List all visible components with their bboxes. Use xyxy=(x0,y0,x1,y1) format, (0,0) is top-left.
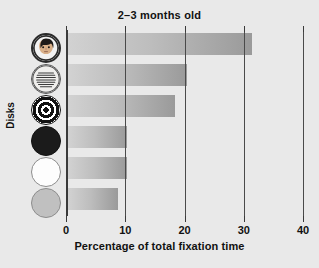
bar-black xyxy=(68,126,127,148)
tick-top-20 xyxy=(185,26,186,32)
chart-title: 2–3 months old xyxy=(0,9,319,21)
x-tick-label-30: 30 xyxy=(238,224,250,236)
tick-top-30 xyxy=(244,26,245,32)
gridline-40 xyxy=(303,30,304,216)
tick-top-10 xyxy=(125,26,126,32)
face-disk-icon xyxy=(31,33,61,63)
x-axis-title: Percentage of total fixation time xyxy=(0,240,319,252)
bar-chart: 2–3 months old Disks xyxy=(0,0,319,268)
white-disk-icon xyxy=(31,157,61,187)
tick-bottom-10 xyxy=(125,216,126,222)
gray-disk-icon xyxy=(31,188,61,218)
tick-bottom-30 xyxy=(244,216,245,222)
bar-white xyxy=(68,157,127,179)
x-tick-label-10: 10 xyxy=(119,224,131,236)
x-tick-label-40: 40 xyxy=(297,224,309,236)
y-axis-title: Disks xyxy=(5,92,16,140)
tick-bottom-0 xyxy=(66,216,67,222)
bar-bullseye xyxy=(68,95,175,117)
bar-newsprint xyxy=(68,64,187,86)
newsprint-disk-icon xyxy=(31,64,61,94)
bullseye-disk-icon xyxy=(31,95,61,125)
black-disk-icon xyxy=(31,126,61,156)
tick-bottom-40 xyxy=(303,216,304,222)
tick-top-0 xyxy=(66,26,67,32)
tick-top-40 xyxy=(303,26,304,32)
gridline-30 xyxy=(244,30,245,216)
bar-face xyxy=(68,33,252,55)
x-tick-label-20: 20 xyxy=(178,224,190,236)
plot-area: 010203040 xyxy=(66,30,303,216)
tick-bottom-20 xyxy=(185,216,186,222)
bar-gray xyxy=(68,188,118,210)
gridline-20 xyxy=(185,30,186,216)
gridline-10 xyxy=(125,30,126,216)
x-tick-label-0: 0 xyxy=(63,224,69,236)
